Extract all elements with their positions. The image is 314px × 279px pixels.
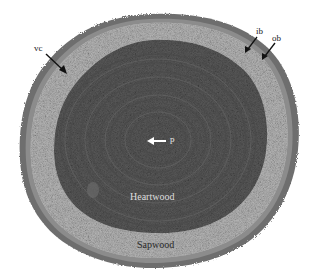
label-vascular-cambium: vc [34, 44, 43, 53]
tree-cross-section-figure: vc ib ob p Heartwood Sapwood [0, 0, 314, 279]
label-outer-bark: ob [272, 34, 281, 43]
label-pith: p [170, 135, 175, 144]
label-inner-bark: ib [256, 27, 263, 36]
trunk-illustration [0, 0, 314, 279]
knot [87, 182, 99, 198]
label-sapwood: Sapwood [137, 240, 174, 250]
label-heartwood: Heartwood [130, 192, 174, 202]
